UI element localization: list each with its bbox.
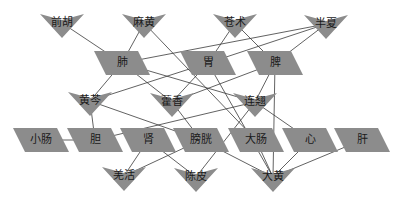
organ-node-pangguang: 膀胱 bbox=[173, 128, 229, 152]
herb-label: 大黄 bbox=[262, 169, 284, 183]
organ-label: 胃 bbox=[203, 56, 214, 69]
herb-node-dahuang: 大黄 bbox=[251, 168, 295, 192]
organ-node-dachang: 大肠 bbox=[228, 128, 284, 152]
organ-label: 脾 bbox=[270, 55, 281, 69]
herb-node-huoxiang: 藿香 bbox=[150, 93, 194, 117]
organ-label: 心 bbox=[305, 133, 316, 146]
herb-node-chenpi: 陈皮 bbox=[174, 168, 218, 192]
herb-node-huangqin: 黄芩 bbox=[68, 92, 112, 116]
organ-label: 肺 bbox=[117, 56, 128, 69]
herb-label: 黄芩 bbox=[79, 93, 101, 107]
organ-label: 小肠 bbox=[30, 133, 52, 146]
herb-label: 羌活 bbox=[113, 169, 135, 182]
organ-node-fei: 肺 bbox=[94, 51, 150, 75]
organ-label: 肝 bbox=[357, 133, 368, 146]
organ-node-wei: 胃 bbox=[180, 51, 236, 75]
organ-node-dan: 胆 bbox=[67, 128, 123, 152]
organ-node-xin: 心 bbox=[282, 128, 338, 152]
herb-organ-network-diagram: 前胡麻黄苍术半夏黄芩藿香连翘羌活陈皮大黄肺胃脾小肠胆肾膀胱大肠心肝 bbox=[0, 0, 394, 203]
organ-node-pi: 脾 bbox=[247, 51, 303, 75]
organ-label: 肾 bbox=[143, 133, 154, 146]
herb-label: 连翘 bbox=[244, 95, 266, 108]
herb-label: 陈皮 bbox=[185, 169, 207, 183]
edge-pi-dahuang bbox=[273, 63, 275, 177]
organ-node-shen: 肾 bbox=[120, 128, 176, 152]
organ-label: 大肠 bbox=[245, 132, 267, 146]
herb-label: 前胡 bbox=[51, 15, 73, 29]
herb-label: 半夏 bbox=[315, 16, 337, 30]
herb-label: 麻黄 bbox=[133, 15, 155, 29]
herb-node-qianghuo: 羌活 bbox=[102, 167, 146, 191]
node-layer: 前胡麻黄苍术半夏黄芩藿香连翘羌活陈皮大黄肺胃脾小肠胆肾膀胱大肠心肝 bbox=[13, 14, 390, 192]
herb-node-cangzhu: 苍术 bbox=[213, 14, 257, 38]
herb-label: 藿香 bbox=[161, 94, 183, 108]
organ-node-xiaochang: 小肠 bbox=[13, 128, 69, 152]
organ-label: 胆 bbox=[90, 133, 101, 146]
herb-node-mahuang: 麻黄 bbox=[122, 14, 166, 38]
herb-label: 苍术 bbox=[224, 16, 246, 29]
herb-node-lianqiao: 连翘 bbox=[233, 93, 277, 117]
organ-label: 膀胱 bbox=[190, 132, 212, 146]
herb-node-qianhu: 前胡 bbox=[40, 14, 84, 38]
